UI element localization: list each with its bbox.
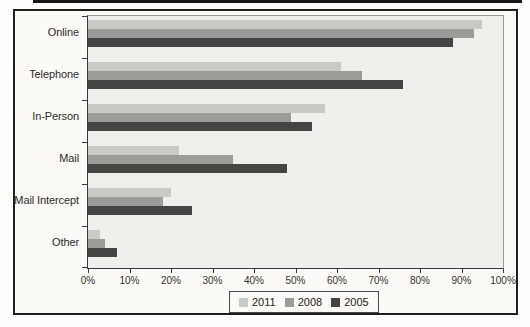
bar-2008-telephone (88, 71, 362, 80)
x-axis: 0%10%20%30%40%50%60%70%80%90%100% (87, 269, 504, 289)
category-label-other: Other (13, 225, 83, 267)
bar-group-in-person (88, 100, 503, 142)
legend-label-2011: 2011 (252, 296, 276, 308)
x-axis-tick (88, 269, 89, 273)
bar-2008-in-person (88, 113, 291, 122)
bar-group-other (88, 226, 503, 268)
bar-2008-mail-intercept (88, 197, 163, 206)
category-label-in-person: In-Person (13, 99, 83, 141)
bar-group-online (88, 16, 503, 58)
x-axis-label-50-: 50% (276, 275, 316, 286)
bar-2005-online (88, 38, 453, 47)
y-axis-tick (82, 184, 88, 185)
x-axis-tick (254, 269, 255, 273)
plot-area (87, 15, 504, 269)
x-axis-tick (420, 269, 421, 273)
legend-item-2011: 2011 (239, 296, 276, 308)
x-axis-label-30-: 30% (193, 275, 233, 286)
bar-2011-in-person (88, 104, 325, 113)
x-axis-tick (171, 269, 172, 273)
bar-2005-mail-intercept (88, 206, 192, 215)
legend-item-2005: 2005 (331, 296, 368, 308)
x-axis-tick (130, 269, 131, 273)
y-axis-tick (82, 142, 88, 143)
bar-2011-mail (88, 146, 179, 155)
bar-2011-other (88, 230, 100, 239)
y-axis-tick (82, 267, 88, 268)
x-axis-tick (503, 269, 504, 273)
bar-2005-other (88, 248, 117, 257)
x-axis-label-0-: 0% (68, 275, 108, 286)
x-axis-tick (296, 269, 297, 273)
bar-2011-telephone (88, 62, 341, 71)
page-top-rule (33, 0, 522, 3)
bar-group-mail-intercept (88, 184, 503, 226)
bar-2008-other (88, 239, 105, 248)
x-axis-tick (337, 269, 338, 273)
category-label-online: Online (13, 15, 83, 57)
bar-2005-in-person (88, 122, 312, 131)
bar-2005-telephone (88, 80, 403, 89)
bar-2011-online (88, 20, 482, 29)
legend-label-2005: 2005 (344, 296, 368, 308)
x-axis-tick (379, 269, 380, 273)
legend: 201120082005 (229, 291, 379, 313)
page: { "page": { "background": "#fdfdfb", "to… (0, 0, 530, 327)
legend-swatch-2011 (239, 298, 248, 307)
x-axis-label-10-: 10% (110, 275, 150, 286)
x-axis-label-60-: 60% (317, 275, 357, 286)
legend-item-2008: 2008 (285, 296, 322, 308)
bar-2008-mail (88, 155, 233, 164)
category-axis-labels: OnlineTelephoneIn-PersonMailMail Interce… (13, 15, 83, 267)
x-axis-label-40-: 40% (234, 275, 274, 286)
chart-figure: OnlineTelephoneIn-PersonMailMail Interce… (13, 9, 518, 315)
category-label-telephone: Telephone (13, 57, 83, 99)
category-label-mail: Mail (13, 141, 83, 183)
y-axis-tick (82, 16, 88, 17)
x-axis-tick (462, 269, 463, 273)
category-label-mail-intercept: Mail Intercept (13, 183, 83, 225)
x-axis-label-80-: 80% (400, 275, 440, 286)
bar-2005-mail (88, 164, 287, 173)
x-axis-label-90-: 90% (442, 275, 482, 286)
x-axis-label-100-: 100% (483, 275, 523, 286)
y-axis-tick (82, 226, 88, 227)
legend-swatch-2008 (285, 298, 294, 307)
x-axis-label-20-: 20% (151, 275, 191, 286)
y-axis-tick (82, 100, 88, 101)
bar-group-mail (88, 142, 503, 184)
legend-label-2008: 2008 (298, 296, 322, 308)
legend-swatch-2005 (331, 298, 340, 307)
x-axis-label-70-: 70% (359, 275, 399, 286)
x-axis-tick (213, 269, 214, 273)
bar-2008-online (88, 29, 474, 38)
bar-group-telephone (88, 58, 503, 100)
y-axis-tick (82, 58, 88, 59)
bar-2011-mail-intercept (88, 188, 171, 197)
